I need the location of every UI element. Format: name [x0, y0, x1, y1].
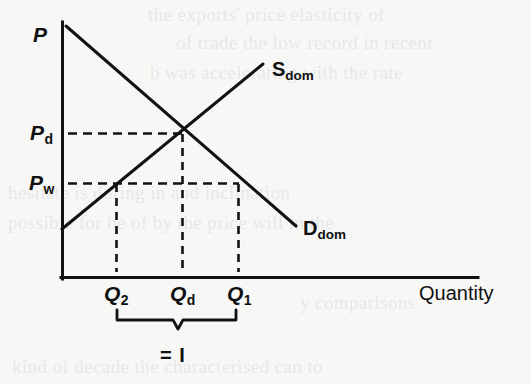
- quantity-label-q1: Q1: [227, 283, 251, 304]
- quantity-label-q1-base: Q: [227, 282, 243, 305]
- quantity-label-qd-base: Q: [170, 282, 186, 305]
- supply-curve-label: Sdom: [272, 59, 314, 79]
- supply-demand-chart: [0, 0, 531, 384]
- supply-curve-label-subscript: dom: [285, 68, 314, 83]
- price-label-world-subscript: w: [44, 181, 55, 197]
- quantity-label-q2: Q2: [104, 283, 128, 304]
- price-label-world: Pw: [29, 172, 54, 193]
- axis-lines: [61, 22, 478, 279]
- price-label-domestic-base: P: [30, 121, 44, 144]
- price-label-domestic: Pd: [30, 122, 53, 143]
- price-label-world-base: P: [29, 171, 43, 194]
- supply-curve-label-base: S: [272, 58, 285, 80]
- imports-brace: [117, 310, 236, 329]
- quantity-label-q1-subscript: 1: [244, 292, 252, 308]
- quantity-label-qd: Qd: [170, 283, 195, 304]
- demand-curve-label-subscript: dom: [317, 227, 346, 242]
- supply-curve-line: [62, 64, 263, 229]
- price-label-domestic-subscript: d: [45, 131, 54, 147]
- imports-brace-label: = I: [160, 345, 186, 365]
- quantity-label-q2-base: Q: [104, 282, 120, 305]
- quantity-label-q2-subscript: 2: [121, 292, 129, 308]
- demand-curve-label-base: D: [303, 217, 317, 239]
- quantity-label-qd-subscript: d: [187, 292, 196, 308]
- x-axis-label: Quantity: [419, 283, 493, 303]
- brace-path: [117, 310, 236, 329]
- demand-curve-label: Ddom: [303, 218, 346, 238]
- y-axis-label: P: [33, 24, 47, 45]
- figure-page: the exports' price elasticity of of trad…: [0, 0, 531, 384]
